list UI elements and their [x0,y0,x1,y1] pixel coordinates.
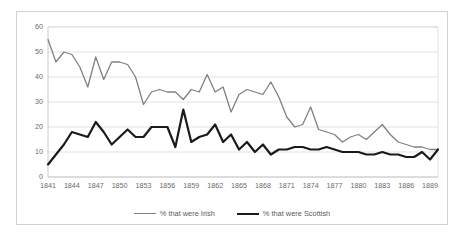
y-tick-label: 20 [19,122,43,131]
legend-line-swatch-irish [134,213,156,214]
y-tick-label: 40 [19,72,43,81]
series-line-1 [48,110,438,165]
y-tick-label: 60 [19,22,43,31]
y-tick-label: 30 [19,97,43,106]
y-tick-label: 0 [19,172,43,181]
legend-line-swatch-scottish [237,213,259,215]
legend-label-irish: % that were Irish [160,209,215,218]
legend-label-scottish: % that were Scottish [263,209,330,218]
plot-area: 0102030405060 18411844184718501853185618… [17,12,447,224]
x-tick-label: 1889 [416,181,444,190]
legend-item-scottish[interactable]: % that were Scottish [237,209,330,218]
series-line-0 [48,40,438,150]
chart-svg [17,12,449,226]
y-tick-label: 50 [19,47,43,56]
chart-container: 0102030405060 18411844184718501853185618… [16,11,448,225]
y-tick-label: 10 [19,147,43,156]
chart-legend: % that were Irish % that were Scottish [17,209,447,218]
legend-item-irish[interactable]: % that were Irish [134,209,215,218]
